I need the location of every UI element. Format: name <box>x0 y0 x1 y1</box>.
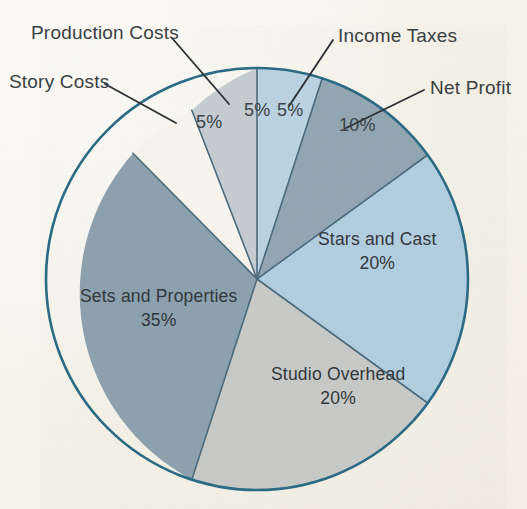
chart-canvas: Production Costs Income Taxes Story Cost… <box>0 0 527 509</box>
slice-pct-studio-overhead: 20% <box>271 387 405 411</box>
callout-label-story-costs: Story Costs <box>9 71 109 93</box>
callout-label-net-profit: Net Profit <box>430 77 511 99</box>
slice-pct-production-costs: 5% <box>244 100 270 121</box>
slice-label-sets-and-properties: Sets and Properties 35% <box>80 285 238 332</box>
slice-label-studio-overhead-text: Studio Overhead <box>271 364 405 384</box>
callout-label-income-taxes: Income Taxes <box>338 25 457 47</box>
slice-label-sets-and-properties-text: Sets and Properties <box>80 286 238 306</box>
slice-label-studio-overhead: Studio Overhead 20% <box>271 363 405 410</box>
slice-pct-sets-and-properties: 35% <box>80 309 238 333</box>
slice-pct-net-profit: 10% <box>339 115 376 136</box>
slice-pct-story-costs: 5% <box>196 112 222 133</box>
slice-label-stars-and-cast-text: Stars and Cast <box>318 229 437 249</box>
slice-label-stars-and-cast: Stars and Cast 20% <box>318 228 437 275</box>
callout-label-production-costs: Production Costs <box>31 22 179 44</box>
slice-pct-stars-and-cast: 20% <box>318 252 437 276</box>
slice-pct-income-taxes: 5% <box>277 100 303 121</box>
